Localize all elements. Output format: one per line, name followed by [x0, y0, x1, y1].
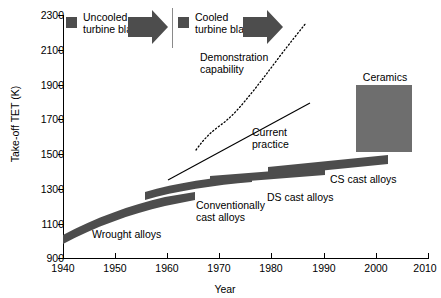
x-tick-label-1990: 1990 [304, 262, 344, 274]
x-tick-label-2010: 2010 [405, 262, 441, 274]
x-axis-title: Year [205, 283, 245, 295]
x-tick-mark [324, 253, 325, 259]
annotation-demonstration-capability: Demonstration capability [200, 52, 300, 75]
legend-divider [172, 8, 173, 48]
y-tick-mark [58, 154, 64, 155]
x-axis-line [63, 258, 429, 259]
x-tick-mark [271, 253, 272, 259]
annotation-current-line1: Current [252, 127, 322, 139]
series-band-conventionally-cast-alloys [145, 174, 252, 200]
x-tick-mark [219, 253, 220, 259]
y-tick-mark [58, 85, 64, 86]
series-band-ds-cast-alloys [210, 167, 325, 184]
legend-swatch-uncooled [66, 17, 77, 28]
x-tick-label-1940: 1940 [43, 262, 83, 274]
x-tick-label-1980: 1980 [251, 262, 291, 274]
y-tick-1100: 1100 [0, 219, 64, 229]
annotation-demonstration-line2: capability [200, 64, 300, 76]
x-tick-label-2000: 2000 [356, 262, 396, 274]
annotation-conventional-line2: cast alloys [196, 212, 306, 224]
ceramics-block [356, 85, 412, 152]
annotation-current-line2: practice [252, 139, 322, 151]
x-tick-label-1960: 1960 [147, 262, 187, 274]
annotation-demonstration-line1: Demonstration [200, 52, 300, 64]
annotation-ds-cast-alloys: DS cast alloys [267, 192, 357, 204]
legend-label-uncooled-line2: turbine blades [83, 24, 149, 36]
legend-label-cooled-line2: turbine blades [195, 24, 261, 36]
legend-label-uncooled-line1: Uncooled [83, 12, 149, 24]
y-tick-1300: 1300 [0, 184, 64, 194]
y-axis-title: Take-off TET (K) [9, 64, 21, 184]
y-tick-2100: 2100 [0, 45, 64, 55]
annotation-wrought-alloys: Wrought alloys [92, 229, 202, 241]
y-tick-mark [58, 15, 64, 16]
y-tick-mark [58, 119, 64, 120]
annotation-ceramics: Ceramics [352, 71, 418, 83]
x-tick-mark [115, 253, 116, 259]
y-tick-mark [58, 189, 64, 190]
annotation-cs-cast-alloys: CS cast alloys [330, 174, 425, 186]
annotation-current-practice: Current practice [252, 127, 322, 150]
y-tick-mark [58, 50, 64, 51]
legend-label-cooled: Cooled turbine blades [195, 12, 261, 35]
x-tick-label-1950: 1950 [95, 262, 135, 274]
legend-label-cooled-line1: Cooled [195, 12, 261, 24]
x-tick-mark [376, 253, 377, 259]
y-tick-2300: 2300 [0, 10, 64, 20]
x-tick-mark [63, 253, 64, 259]
x-tick-mark [428, 253, 429, 259]
x-tick-label-1970: 1970 [199, 262, 239, 274]
x-tick-mark [167, 253, 168, 259]
legend-swatch-cooled [178, 17, 189, 28]
legend-label-uncooled: Uncooled turbine blades [83, 12, 149, 35]
y-tick-mark [58, 224, 64, 225]
